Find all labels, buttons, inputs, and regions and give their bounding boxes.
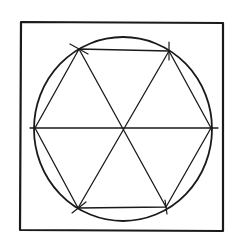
diagonal-top-right-to-bottom-left	[78, 51, 169, 208]
hexagon-construction-diagram	[0, 0, 236, 245]
diagram-canvas	[0, 0, 236, 245]
